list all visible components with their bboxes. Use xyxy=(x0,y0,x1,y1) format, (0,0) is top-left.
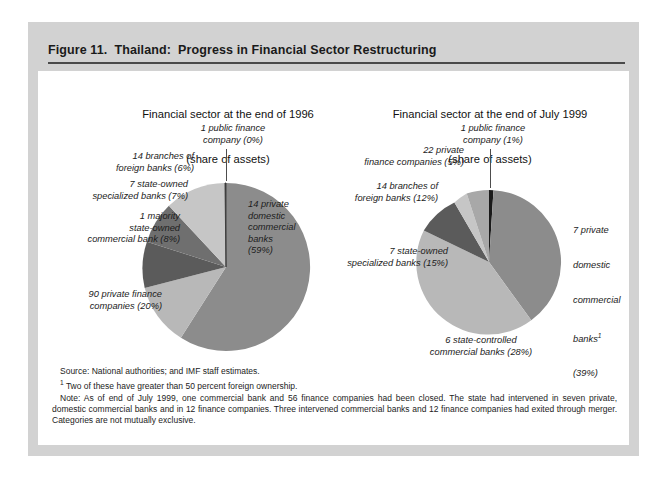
callout-1999-private-domestic-line2: domestic xyxy=(573,260,643,272)
callout-1996-state-specialized: 7 state-ownedspecialized banks (7%) xyxy=(48,179,188,202)
note-general: Note: As of end of July 1999, one commer… xyxy=(52,393,617,427)
figure-notes: Source: National authorities; and IMF st… xyxy=(52,366,617,427)
figure-panel: Figure 11. Thailand: Progress in Financi… xyxy=(28,22,639,456)
leader-1999-public-finance xyxy=(490,149,491,188)
callout-1999-private-domestic-line4: banks1 xyxy=(573,330,643,346)
callout-1996-majority-state: 1 majoritystate-ownedcommercial bank (8%… xyxy=(40,211,180,246)
figure-body: Financial sector at the end of 1996 (sha… xyxy=(38,71,629,445)
figure-title-bar: Figure 11. Thailand: Progress in Financi… xyxy=(38,31,629,57)
callout-1996-public-finance: 1 public financecompany (0%) xyxy=(178,123,288,146)
chart-1999-title-line1: Financial sector at the end of July 1999 xyxy=(356,107,624,122)
note-source: Source: National authorities; and IMF st… xyxy=(52,366,617,377)
footnote-ref-1: 1 xyxy=(598,332,602,339)
leader-1996-public-finance xyxy=(226,149,227,181)
callout-1999-private-domestic-word: banks xyxy=(573,334,598,344)
chart-1996-title-line1: Financial sector at the end of 1996 xyxy=(98,107,358,122)
callout-1996-private-finance: 90 private financecompanies (20%) xyxy=(44,289,162,312)
callout-1999-state-specialized: 7 state-ownedspecialized banks (15%) xyxy=(306,246,448,269)
note-footnote-text: Two of these have greater than 50 percen… xyxy=(64,381,298,391)
figure-title: Figure 11. Thailand: Progress in Financi… xyxy=(48,43,437,57)
callout-1999-private-domestic-line1: 7 private xyxy=(573,225,643,237)
note-footnote: 1 Two of these have greater than 50 perc… xyxy=(52,377,617,392)
callout-1999-public-finance: 1 public financecompany (1%) xyxy=(438,123,548,146)
callout-1999-state-controlled: 6 state-controlledcommercial banks (28%) xyxy=(406,335,556,358)
callout-1999-foreign-branches: 14 branches offoreign banks (12%) xyxy=(316,181,438,204)
title-divider xyxy=(48,62,625,64)
callout-1996-foreign-branches: 14 branches offoreign banks (6%) xyxy=(86,151,194,174)
callout-1999-private-finance: 22 privatefinance companies (5%) xyxy=(338,145,464,168)
callout-1999-private-domestic-line3: commercial xyxy=(573,295,643,307)
